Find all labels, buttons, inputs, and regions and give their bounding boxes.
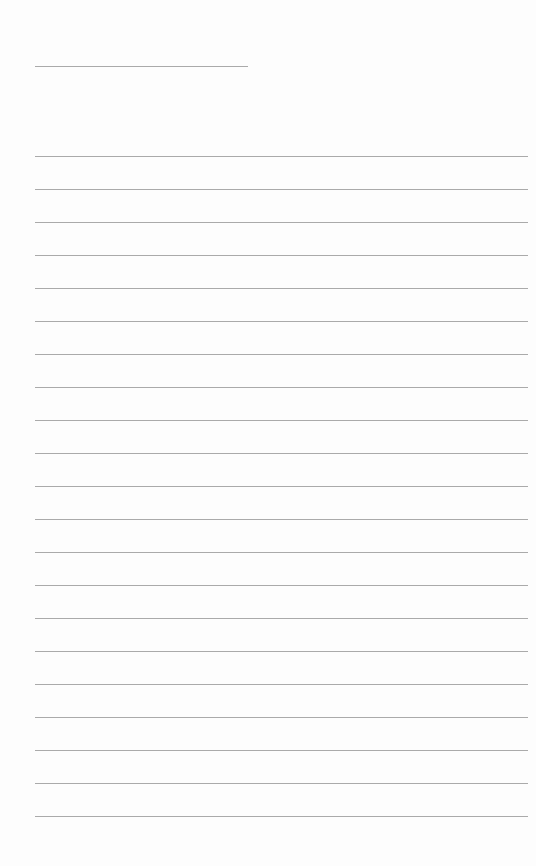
ruled-line [35, 783, 528, 784]
ruled-line [35, 288, 528, 289]
ruled-line [35, 255, 528, 256]
ruled-line [35, 156, 528, 157]
ruled-line [35, 486, 528, 487]
ruled-line [35, 387, 528, 388]
title-line [35, 66, 248, 67]
notebook-page [0, 0, 536, 866]
ruled-line [35, 552, 528, 553]
ruled-line [35, 189, 528, 190]
ruled-line [35, 420, 528, 421]
ruled-line [35, 816, 528, 817]
ruled-line [35, 585, 528, 586]
ruled-line [35, 651, 528, 652]
ruled-line [35, 321, 528, 322]
ruled-line [35, 618, 528, 619]
ruled-line [35, 717, 528, 718]
ruled-line [35, 684, 528, 685]
ruled-line [35, 354, 528, 355]
ruled-line [35, 453, 528, 454]
ruled-line [35, 750, 528, 751]
ruled-line [35, 519, 528, 520]
ruled-line [35, 222, 528, 223]
